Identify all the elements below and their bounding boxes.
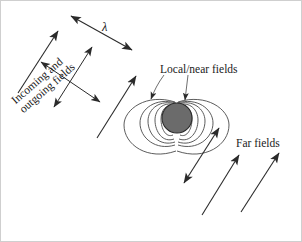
- dipole-source-sphere: [162, 103, 192, 133]
- label-far-fields: Far fields: [236, 137, 280, 149]
- label-local-near-fields: Local/near fields: [160, 63, 238, 75]
- label-wavelength-lambda: λ: [102, 21, 107, 35]
- far-field-arrow-2: [202, 155, 239, 215]
- diagram-canvas: [1, 1, 302, 242]
- local-field-pointer-lines: [151, 75, 188, 100]
- propagation-arrow-right: [97, 76, 136, 138]
- em-field-diagram: Local/near fields Far fields λ Incoming …: [0, 0, 302, 242]
- far-field-arrow-3: [241, 153, 279, 212]
- far-field-arrow-1: [184, 128, 219, 183]
